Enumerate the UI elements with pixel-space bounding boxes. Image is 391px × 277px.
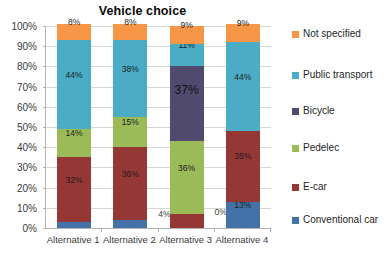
y-tick-mark	[43, 188, 46, 189]
legend-swatch-icon	[292, 217, 299, 224]
legend-label: Pedelec	[303, 142, 339, 155]
legend-item[interactable]: Conventional car	[292, 214, 378, 227]
x-tick-label: Alternative 4	[212, 234, 272, 245]
legend-swatch-icon	[292, 108, 299, 115]
bar-segment[interactable]	[170, 214, 204, 228]
y-tick-mark	[43, 107, 46, 108]
legend-item[interactable]: E-car	[292, 181, 327, 194]
legend-label: Not specified	[303, 28, 361, 41]
bar-segment[interactable]	[57, 40, 91, 129]
plot-area: 3%32%14%44%8%4%36%15%38%8%0%7%36%37%11%9…	[45, 26, 271, 229]
y-tick-mark	[43, 167, 46, 168]
bar-stack: 13%35%44%9%	[226, 26, 260, 228]
bar-segment[interactable]	[170, 66, 204, 141]
bar-segment[interactable]	[57, 157, 91, 222]
legend-label: E-car	[303, 181, 327, 194]
legend-label: Bicycle	[303, 105, 335, 118]
legend-label: Public transport	[303, 69, 372, 82]
bar-segment[interactable]	[113, 117, 147, 147]
x-tick-label: Alternative 1	[43, 234, 103, 245]
bar-segment[interactable]	[113, 220, 147, 228]
y-tick-label: 100%	[11, 21, 37, 32]
bar-segment[interactable]	[226, 42, 260, 131]
bar-stack: 0%7%36%37%11%9%	[170, 26, 204, 228]
y-tick-mark	[43, 208, 46, 209]
x-tick-mark	[270, 228, 271, 232]
y-tick-mark	[43, 87, 46, 88]
y-tick-mark	[43, 66, 46, 67]
bar-stack: 4%36%15%38%8%	[113, 26, 147, 228]
bar-segment[interactable]	[113, 40, 147, 117]
y-tick-label: 70%	[17, 81, 37, 92]
bar-segment[interactable]	[57, 222, 91, 228]
x-tick-label: Alternative 2	[99, 234, 159, 245]
bar-column[interactable]: 13%35%44%9%	[226, 26, 260, 228]
y-tick-mark	[43, 127, 46, 128]
bar-column[interactable]: 0%7%36%37%11%9%	[170, 26, 204, 228]
x-axis: Alternative 1Alternative 2Alternative 3A…	[45, 234, 270, 254]
bar-segment[interactable]	[226, 202, 260, 228]
y-tick-mark	[43, 228, 46, 229]
y-tick-label: 30%	[17, 162, 37, 173]
y-tick-label: 90%	[17, 41, 37, 52]
y-tick-label: 0%	[23, 223, 37, 234]
bar-column[interactable]: 3%32%14%44%8%	[57, 26, 91, 228]
legend-item[interactable]: Pedelec	[292, 142, 339, 155]
bar-segment[interactable]	[226, 24, 260, 42]
chart-title: Vehicle choice	[0, 4, 285, 18]
bar-segment[interactable]	[57, 24, 91, 40]
x-tick-mark	[158, 228, 159, 232]
y-tick-label: 10%	[17, 202, 37, 213]
legend-item[interactable]: Not specified	[292, 28, 361, 41]
legend-swatch-icon	[292, 72, 299, 79]
y-axis: 0%10%20%30%40%50%60%70%80%90%100%	[0, 26, 41, 228]
bar-stack: 3%32%14%44%8%	[57, 26, 91, 228]
bar-segment[interactable]	[170, 26, 204, 44]
bar-segment[interactable]	[113, 24, 147, 40]
x-tick-mark	[101, 228, 102, 232]
bar-segment[interactable]	[113, 147, 147, 220]
bar-segment[interactable]	[57, 129, 91, 157]
bar-segment[interactable]	[170, 141, 204, 214]
legend-item[interactable]: Public transport	[292, 69, 372, 82]
legend-swatch-icon	[292, 145, 299, 152]
legend-swatch-icon	[292, 31, 299, 38]
y-tick-label: 50%	[17, 122, 37, 133]
y-tick-mark	[43, 26, 46, 27]
bar-segment[interactable]	[170, 44, 204, 66]
y-tick-mark	[43, 147, 46, 148]
bar-column[interactable]: 4%36%15%38%8%	[113, 26, 147, 228]
chart-container: Vehicle choice 0%10%20%30%40%50%60%70%80…	[0, 0, 391, 277]
legend-swatch-icon	[292, 184, 299, 191]
y-tick-label: 60%	[17, 101, 37, 112]
y-tick-label: 80%	[17, 61, 37, 72]
x-tick-mark	[214, 228, 215, 232]
legend-item[interactable]: Bicycle	[292, 105, 335, 118]
y-tick-label: 20%	[17, 182, 37, 193]
chart-legend: Not specifiedPublic transportBicyclePede…	[292, 26, 391, 236]
x-tick-label: Alternative 3	[156, 234, 216, 245]
y-tick-label: 40%	[17, 142, 37, 153]
y-tick-mark	[43, 46, 46, 47]
legend-label: Conventional car	[303, 214, 378, 227]
bar-segment[interactable]	[226, 131, 260, 202]
